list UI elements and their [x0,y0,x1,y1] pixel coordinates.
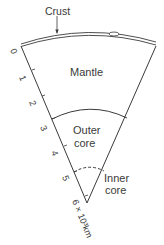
tick-label-5: 5 [60,174,71,182]
inner-core-label-line1: Inner [104,172,129,184]
crust-pointer-arrow [55,16,58,34]
inner-core-label-line2: core [105,184,126,196]
tick-label-3: 3 [38,124,49,132]
inner-core-boundary [74,167,104,172]
outer-core-label-line1: Outer [73,124,101,136]
tick-label-2: 2 [27,99,38,107]
tick-label-4: 4 [49,149,60,157]
crust-layer [21,32,156,47]
core-mantle-boundary [52,109,127,119]
scale-end-label: 6 × 10³km [70,198,94,239]
tick-label-1: 1 [17,74,28,82]
mantle-label: Mantle [70,66,103,78]
outer-core-label-line2: core [74,137,95,149]
crust-label: Crust [45,5,70,17]
tick-label-0: 0 [8,47,19,55]
earth-layers-diagram: 0 1 2 3 4 5 6 × 10³km Crust Mantle Outer… [0,0,164,245]
